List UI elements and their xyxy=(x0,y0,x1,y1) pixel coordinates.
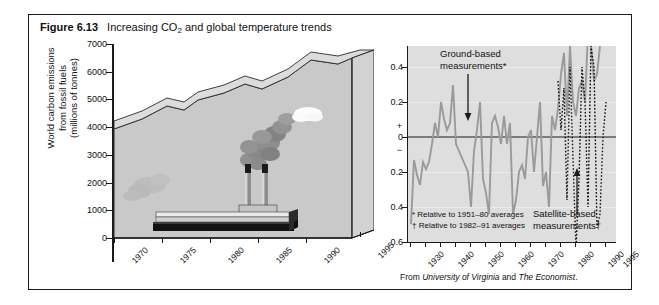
ry-ticklabel-0: 0 xyxy=(398,132,403,142)
rx-tickmark-1950 xyxy=(470,243,471,247)
source-join: and xyxy=(500,272,519,282)
satellite-based-annotation-line2: measurements† xyxy=(533,220,601,231)
rx-tickmark-1985 xyxy=(575,243,576,247)
satellite-based-annotation-line1: Satellite-based xyxy=(533,208,596,219)
rx-tickmark-1935 xyxy=(425,243,426,247)
rx-ticklabel-1950: 1950 xyxy=(486,249,506,269)
y-ticklabel-7000: 7000 xyxy=(87,39,107,49)
rx-ticklabel-1940: 1940 xyxy=(456,249,476,269)
left-chart-panel: World carbon emissions from fossil fuels… xyxy=(30,36,380,286)
ry-plus-sign: + xyxy=(397,121,402,131)
rx-tickmark-1930 xyxy=(410,243,411,247)
y-axis-label-line3: (millions of tonnes) xyxy=(68,58,79,138)
y-ticklabel-5000: 5000 xyxy=(87,94,107,104)
rx-tickmark-1955 xyxy=(485,243,486,247)
x-tickmark-1970 xyxy=(114,238,115,243)
left-chart-plot: 7000 6000 5000 4000 3000 2000 xyxy=(112,44,374,262)
x-tickmark-1980 xyxy=(210,238,211,243)
footnote-satellite: † Relative to 1982–91 averages xyxy=(412,221,525,231)
source-prefix: From xyxy=(400,272,422,282)
emissions-area-right-face xyxy=(352,50,374,238)
right-chart-x-axis xyxy=(407,242,616,243)
emissions-3d-area xyxy=(112,44,374,262)
footnote-ground: * Relative to 1951–80 averages xyxy=(412,210,524,220)
right-chart-y-axis xyxy=(407,46,408,242)
satellite-based-annotation: Satellite-based measurements† xyxy=(533,208,601,231)
y-ticklabel-3000: 3000 xyxy=(87,150,107,160)
source-org-1: University of Virginia xyxy=(422,272,499,282)
ry-ticklabel-0.6neg: 0.6 xyxy=(390,237,403,247)
ground-based-annotation-line1: Ground-based xyxy=(440,48,501,59)
figure-caption-post: and global temperature trends xyxy=(182,21,332,33)
y-axis-label-line2: from fossil fuels xyxy=(57,65,68,131)
ground-based-arrow-icon xyxy=(462,74,474,122)
source-suffix: . xyxy=(575,272,577,282)
rx-tickmark-1965 xyxy=(515,243,516,247)
rx-tickmark-1960 xyxy=(500,243,501,247)
rx-tickmark-1945 xyxy=(455,243,456,247)
y-ticklabel-4000: 4000 xyxy=(87,122,107,132)
rx-tickmark-1990 xyxy=(590,243,591,247)
figure-caption-pre: Increasing CO xyxy=(107,21,177,33)
figure-screenshot: Figure 6.13Increasing CO2 and global tem… xyxy=(0,0,659,305)
ground-based-annotation: Ground-based measurements* xyxy=(440,48,507,71)
x-tickmark-1990 xyxy=(306,238,307,243)
x-tickmark-1975 xyxy=(162,238,163,243)
rx-ticklabel-1930: 1930 xyxy=(426,249,446,269)
y-ticklabel-2000: 2000 xyxy=(87,178,107,188)
rx-tickmark-1970 xyxy=(530,243,531,247)
y-ticklabel-6000: 6000 xyxy=(87,67,107,77)
ry-ticklabel-0.4neg: 0.4 xyxy=(390,202,403,212)
source-org-2: The Economist xyxy=(518,272,575,282)
rx-ticklabel-1970: 1970 xyxy=(546,249,566,269)
right-chart-panel: 0.4 0.2 + 0 − 0.2 0.4 0.6 xyxy=(392,36,632,286)
rx-tickmark-1940 xyxy=(440,243,441,247)
figure-source: From University of Virginia and The Econ… xyxy=(400,272,578,282)
ry-ticklabel-0.4pos: 0.4 xyxy=(390,62,403,72)
rx-tickmark-1995 xyxy=(605,243,606,247)
ry-minus-sign: − xyxy=(397,145,402,155)
rx-ticklabel-1980: 1980 xyxy=(576,249,596,269)
rx-ticklabel-1960: 1960 xyxy=(516,249,536,269)
ground-based-annotation-line2: measurements* xyxy=(440,60,507,71)
y-ticklabel-0: 0 xyxy=(102,233,107,243)
ry-ticklabel-0.2neg: 0.2 xyxy=(390,167,403,177)
rx-tickmark-1980 xyxy=(560,243,561,247)
x-tickmark-1995 xyxy=(360,232,361,237)
rx-tickmark-1975 xyxy=(545,243,546,247)
y-axis-label-line1: World carbon emissions xyxy=(45,47,56,148)
rx-ticklabel-1995: 1995 xyxy=(621,249,641,269)
x-tickmark-1985 xyxy=(258,238,259,243)
ry-ticklabel-0.2pos: 0.2 xyxy=(390,97,403,107)
y-ticklabel-1000: 1000 xyxy=(87,205,107,215)
